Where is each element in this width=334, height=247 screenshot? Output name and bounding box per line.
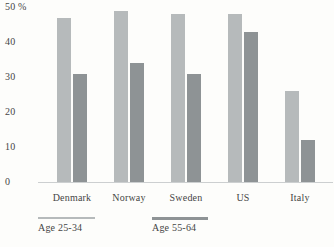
bar-age-55-64-denmark [73,74,87,183]
bar-age-55-64-italy [301,140,315,182]
bar-age-25-34-sweden [171,14,185,182]
y-axis-tick-label: 30 [5,72,15,82]
y-axis-tick-label: 20 [5,107,15,117]
bar-age-55-64-norway [130,63,144,182]
bar-chart: 01020304050 % DenmarkNorwaySwedenUSItaly… [0,0,334,247]
bar-age-25-34-us [228,14,242,182]
y-axis-tick-label: 50 % [5,2,27,12]
bar-age-55-64-sweden [187,74,201,183]
y-axis-tick-label: 10 [5,142,15,152]
legend-swatch-line [38,217,95,219]
legend-swatch-line [152,217,208,220]
bar-age-25-34-denmark [57,18,71,183]
legend-item-label: Age 25-34 [38,222,82,233]
y-axis-tick-label: 0 [5,177,10,187]
y-axis-tick-label: 40 [5,37,15,47]
bar-age-25-34-norway [114,11,128,183]
legend-item-label: Age 55-64 [152,222,196,233]
bar-age-25-34-italy [285,91,299,182]
category-label-italy: Italy [265,192,334,203]
x-axis-line [38,182,333,183]
bar-age-55-64-us [244,32,258,183]
